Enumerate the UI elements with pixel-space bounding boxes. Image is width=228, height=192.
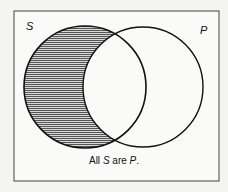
- caption-subject: S: [103, 155, 110, 166]
- caption-prefix: All: [89, 155, 103, 166]
- caption-suffix: .: [136, 155, 139, 166]
- caption-middle: are: [110, 155, 130, 166]
- caption: All S are P.: [0, 155, 228, 166]
- label-s: S: [26, 20, 33, 32]
- label-p: P: [200, 24, 207, 36]
